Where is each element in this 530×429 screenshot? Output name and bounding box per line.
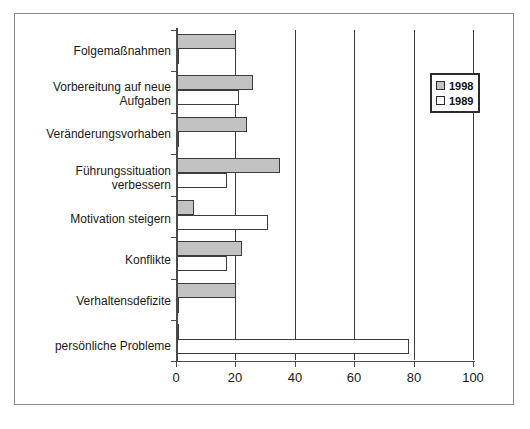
series-1998-swatch-icon (436, 81, 445, 90)
bar-1989-vorbereitung (176, 90, 239, 105)
category-label-line: Veränderungsvorhaben (46, 127, 171, 141)
x-tick-label-100: 100 (462, 370, 484, 385)
category-label-veraenderungsvorhaben: Veränderungsvorhaben (11, 127, 171, 141)
y-axis-line (176, 28, 178, 362)
x-tick-40 (295, 361, 296, 367)
category-label-verhaltensdefizite: Verhaltensdefizite (11, 294, 171, 308)
bar-1998-folgemassnahmen (176, 34, 236, 49)
x-tick-label-20: 20 (228, 370, 242, 385)
legend-label-1989: 1989 (449, 95, 473, 107)
x-tick-label-60: 60 (347, 370, 361, 385)
category-label-motivation: Motivation steigern (11, 212, 171, 226)
chart-legend: 1998 1989 (430, 73, 480, 113)
category-label-line: verbessern (112, 178, 171, 192)
bar-1998-verhaltensdefizite (176, 283, 236, 298)
x-tick-100 (473, 361, 474, 367)
legend-entry-1989: 1989 (436, 93, 473, 108)
x-tick-20 (235, 361, 236, 367)
bar-1989-motivation (176, 215, 268, 230)
x-axis-line (176, 361, 475, 362)
category-label-fuehrungssituation: Führungssituation verbessern (11, 164, 171, 192)
x-tick-60 (354, 361, 355, 367)
x-tick-0 (176, 361, 177, 367)
category-label-line: Vorbereitung auf neue (53, 80, 171, 94)
bar-1998-fuehrungssituation (176, 158, 280, 173)
category-label-konflikte: Konflikte (11, 253, 171, 267)
legend-entry-1998: 1998 (436, 78, 473, 93)
bar-1989-konflikte (176, 256, 227, 271)
x-tick-label-0: 0 (172, 370, 179, 385)
category-label-folgemassnahmen: Folgemaßnahmen (11, 44, 171, 58)
series-1989-swatch-icon (436, 96, 445, 105)
bar-1998-vorbereitung (176, 75, 253, 90)
bar-1989-fuehrungssituation (176, 173, 227, 188)
bar-1998-konflikte (176, 241, 242, 256)
category-axis-labels: Folgemaßnahmen Vorbereitung auf neue Auf… (8, 0, 171, 429)
gridline-40 (295, 30, 296, 360)
category-label-line: Führungssituation (76, 164, 171, 178)
category-label-line: Verhaltensdefizite (76, 294, 171, 308)
legend-label-1998: 1998 (449, 80, 473, 92)
category-label-line: Aufgaben (120, 94, 171, 108)
category-label-line: Folgemaßnahmen (74, 44, 171, 58)
bar-1989-persoenliche-probleme (176, 339, 409, 354)
bar-1998-motivation (176, 200, 194, 215)
category-label-line: Motivation steigern (70, 212, 171, 226)
gridline-80 (414, 30, 415, 360)
category-label-line: persönliche Probleme (55, 339, 171, 353)
category-label-vorbereitung: Vorbereitung auf neue Aufgaben (11, 80, 171, 108)
x-tick-label-40: 40 (288, 370, 302, 385)
category-label-line: Konflikte (125, 253, 171, 267)
bar-1998-veraenderungsvorhaben (176, 117, 247, 132)
gridline-60 (354, 30, 355, 360)
chart-figure: Folgemaßnahmen Vorbereitung auf neue Auf… (0, 0, 530, 429)
x-tick-label-80: 80 (407, 370, 421, 385)
x-tick-80 (414, 361, 415, 367)
category-label-persoenliche-probleme: persönliche Probleme (11, 339, 171, 353)
